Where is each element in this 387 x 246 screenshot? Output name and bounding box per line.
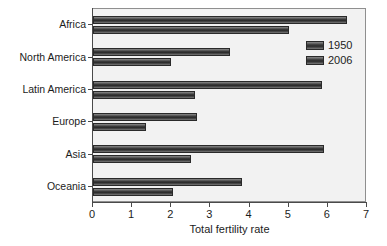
legend-swatch-icon-1950 (306, 41, 324, 50)
bar-group (93, 171, 365, 203)
y-tick-mark (88, 186, 92, 187)
bar-europe-2006 (93, 123, 146, 131)
x-tick-label: 4 (238, 208, 260, 221)
category-label-asia: Asia (0, 148, 86, 160)
legend-swatch-icon-2006 (306, 56, 324, 65)
category-label-oceania: Oceania (0, 180, 86, 192)
bar-africa-1950 (93, 16, 347, 24)
bar-group (93, 9, 365, 41)
x-tick-mark (288, 202, 289, 207)
plot-area (92, 8, 366, 202)
category-label-europe: Europe (0, 115, 86, 127)
x-tick-mark (249, 202, 250, 207)
bar-europe-1950 (93, 113, 197, 121)
bar-group (93, 138, 365, 170)
legend-item-1950: 1950 (306, 39, 362, 52)
y-tick-mark (88, 57, 92, 58)
x-tick-mark (209, 202, 210, 207)
y-tick-mark (88, 89, 92, 90)
x-tick-label: 6 (316, 208, 338, 221)
x-tick-label: 2 (159, 208, 181, 221)
x-tick-label: 0 (81, 208, 103, 221)
bar-north-america-1950 (93, 48, 230, 56)
y-axis-line (92, 8, 93, 202)
fertility-rate-bar-chart: 01234567 AfricaNorth AmericaLatin Americ… (0, 0, 387, 246)
x-tick-mark (170, 202, 171, 207)
y-tick-mark (88, 154, 92, 155)
legend: 1950 2006 (306, 39, 362, 69)
x-tick-mark (366, 202, 367, 207)
bar-asia-2006 (93, 155, 191, 163)
category-label-latin-america: Latin America (0, 83, 86, 95)
bar-north-america-2006 (93, 58, 171, 66)
bars-layer (93, 9, 365, 201)
bar-oceania-2006 (93, 188, 173, 196)
x-tick-mark (92, 202, 93, 207)
x-tick-label: 5 (277, 208, 299, 221)
bar-group (93, 106, 365, 138)
x-tick-mark (327, 202, 328, 207)
x-tick-label: 1 (120, 208, 142, 221)
x-tick-mark (131, 202, 132, 207)
bar-asia-1950 (93, 145, 324, 153)
bar-oceania-1950 (93, 178, 242, 186)
bar-latin-america-1950 (93, 81, 322, 89)
x-axis-line (92, 202, 367, 203)
bar-group (93, 74, 365, 106)
category-label-africa: Africa (0, 18, 86, 30)
bar-africa-2006 (93, 26, 289, 34)
bar-latin-america-2006 (93, 91, 195, 99)
y-tick-mark (88, 121, 92, 122)
x-tick-label: 7 (355, 208, 377, 221)
x-tick-label: 3 (198, 208, 220, 221)
y-tick-mark (88, 24, 92, 25)
category-label-north-america: North America (0, 51, 86, 63)
legend-label-2006: 2006 (328, 55, 352, 66)
legend-label-1950: 1950 (328, 40, 352, 51)
x-axis-title: Total fertility rate (92, 223, 367, 235)
legend-item-2006: 2006 (306, 54, 362, 67)
